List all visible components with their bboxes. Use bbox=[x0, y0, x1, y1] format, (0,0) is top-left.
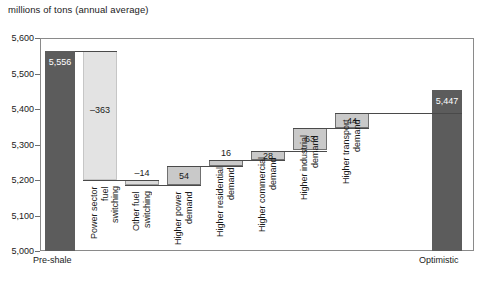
connector-1 bbox=[75, 51, 117, 52]
bar-optimistic: 5,447 bbox=[432, 90, 462, 251]
y-tick-label-5500: 5,500 bbox=[0, 69, 34, 79]
connector-8 bbox=[335, 113, 462, 114]
category-label-higher-residential-demand: Higher residential demand bbox=[215, 167, 236, 250]
category-label-higher-industrial-demand: Higher industrial demand bbox=[299, 135, 320, 223]
category-label-power-sector-fuel-switching: Power sector fuel switching bbox=[89, 186, 121, 254]
chart-axis-title: millions of tons (annual average) bbox=[8, 4, 149, 15]
category-label-higher-commercial-demand: Higher commercial demand bbox=[257, 157, 278, 250]
y-tick-mark-5000 bbox=[35, 251, 40, 252]
y-tick-label-5600: 5,600 bbox=[0, 33, 34, 43]
category-label-other-fuel-switching: Other fuel switching bbox=[131, 191, 152, 248]
connector-2 bbox=[83, 180, 159, 181]
bar-pre-shale: 5,556 bbox=[45, 51, 75, 251]
category-label-higher-power-demand: Higher power demand bbox=[173, 191, 194, 250]
y-tick-label-5000: 5,000 bbox=[0, 246, 34, 256]
bar-value-higher-residential-demand: 16 bbox=[210, 149, 242, 158]
axis-label-pre-shale: Pre-shale bbox=[33, 255, 72, 265]
bar-higher-power-demand: 54 bbox=[167, 166, 201, 185]
y-tick-label-5300: 5,300 bbox=[0, 140, 34, 150]
bar-power-sector-fuel-switching: –363 bbox=[83, 51, 117, 180]
bar-value-power-sector-fuel-switching: –363 bbox=[84, 106, 116, 115]
bar-value-optimistic: 5,447 bbox=[432, 97, 462, 106]
y-tick-label-5200: 5,200 bbox=[0, 175, 34, 185]
bar-value-other-fuel-switching: –14 bbox=[126, 169, 158, 178]
chart-root: millions of tons (annual average) 5,600 … bbox=[0, 0, 481, 292]
y-tick-label-5100: 5,100 bbox=[0, 211, 34, 221]
category-label-higher-transport-demand: Higher transport demand bbox=[341, 119, 362, 209]
y-tick-label-5400: 5,400 bbox=[0, 104, 34, 114]
bar-value-pre-shale: 5,556 bbox=[45, 58, 75, 67]
axis-label-optimistic: Optimistic bbox=[419, 255, 459, 265]
connector-3 bbox=[125, 185, 201, 186]
bar-value-higher-power-demand: 54 bbox=[168, 172, 200, 181]
